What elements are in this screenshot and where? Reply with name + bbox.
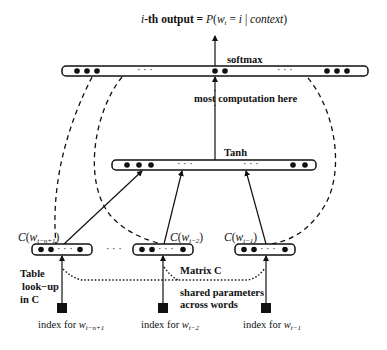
- embedding-label: C(wt−1): [224, 231, 257, 245]
- neuron: [282, 247, 288, 253]
- neuron: [251, 247, 257, 253]
- ellipsis: · · ·: [177, 158, 193, 169]
- embedding-ellipsis: · · ·: [106, 243, 122, 254]
- tanh-box: [112, 160, 316, 170]
- index-label: index for wt−2: [141, 319, 200, 332]
- neuron: [148, 162, 154, 168]
- ellipsis: · · ·: [137, 64, 153, 75]
- neuron: [241, 247, 247, 253]
- neuron: [149, 247, 155, 253]
- embedding-label: C(wt−2): [170, 231, 203, 245]
- neuron: [290, 162, 296, 168]
- neuron: [212, 68, 218, 74]
- neuron: [180, 247, 186, 253]
- ellipsis: · · ·: [243, 158, 259, 169]
- neuron: [334, 68, 340, 74]
- index-square: [57, 303, 67, 313]
- neuron: [222, 68, 228, 74]
- table-lookup-label: Table look−up in C: [20, 268, 62, 305]
- embedding-box-t-1: · · ·: [235, 243, 295, 255]
- embedding-box-t-n+1: · · ·: [32, 243, 92, 255]
- tanh-label: Tanh: [224, 147, 247, 158]
- neuron: [344, 68, 350, 74]
- neuron: [136, 162, 142, 168]
- embedding-box-t-2: · · ·: [133, 243, 193, 255]
- shared-parameters-dotted-line: [63, 268, 265, 280]
- index-square: [158, 303, 168, 313]
- matrix-c-label: Matrix C: [180, 265, 222, 276]
- neuron: [48, 247, 54, 253]
- softmax-label: softmax: [227, 54, 263, 65]
- neuron: [38, 247, 44, 253]
- embedding-to-hidden-arrow: [64, 171, 142, 244]
- svg-text:· · ·: · · ·: [158, 243, 174, 254]
- neuron: [139, 247, 145, 253]
- tanh-layer: · · · · · · Tanh: [112, 147, 316, 170]
- skip-connection-dashed: [55, 77, 92, 244]
- ellipsis: · · ·: [277, 64, 293, 75]
- svg-text:· · ·: · · ·: [57, 243, 73, 254]
- neuron: [74, 68, 80, 74]
- neuron: [84, 68, 90, 74]
- embedding-label: C(wt−n+1): [18, 231, 60, 245]
- index-square: [261, 303, 271, 313]
- index-label: index for wt−1: [243, 319, 301, 332]
- neuron: [302, 162, 308, 168]
- neuron: [94, 68, 100, 74]
- shared-parameters-label: shared parameters across words: [180, 287, 267, 310]
- svg-text:· · ·: · · ·: [260, 243, 276, 254]
- neural-language-model-diagram: i-th output = P(wt = i | context) · · · …: [0, 0, 387, 350]
- neuron: [77, 247, 83, 253]
- most-computation-label: most computation here: [194, 93, 297, 104]
- neuron: [324, 68, 330, 74]
- neuron: [124, 162, 130, 168]
- index-label: index for wt−n+1: [38, 319, 104, 332]
- output-title: i-th output = P(wt = i | context): [141, 13, 287, 27]
